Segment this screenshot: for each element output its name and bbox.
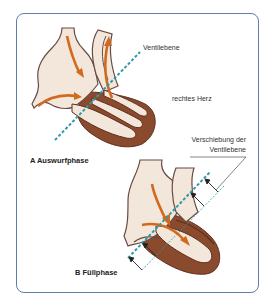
heart-illustration-a — [32, 28, 155, 147]
label-shift-line2: Ventilebene — [209, 146, 246, 153]
label-panel-b: B Füllphase — [75, 268, 118, 277]
label-panel-a: A Auswurfphase — [30, 156, 89, 165]
label-leader-line — [216, 157, 246, 190]
label-right-heart: rechtes Herz — [172, 95, 212, 102]
label-shift-line1: Verschiebung der — [192, 136, 246, 143]
label-valve-plane: Ventilebene — [143, 44, 180, 51]
